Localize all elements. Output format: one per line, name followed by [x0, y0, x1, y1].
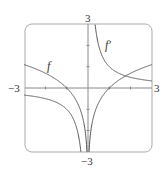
curve-f-left	[24, 65, 87, 152]
curve-f-prime-left	[24, 95, 81, 152]
curve-f-prime-right	[95, 25, 152, 81]
x-min-label: −3	[8, 83, 20, 94]
curve-f-right	[89, 65, 152, 152]
plot-area	[0, 0, 168, 171]
y-min-label: −3	[81, 156, 93, 167]
y-max-label: 3	[85, 13, 91, 24]
curve-label-f-prime: f′	[105, 39, 111, 51]
curve-label-f: f	[47, 60, 50, 72]
x-max-label: 3	[154, 83, 160, 94]
